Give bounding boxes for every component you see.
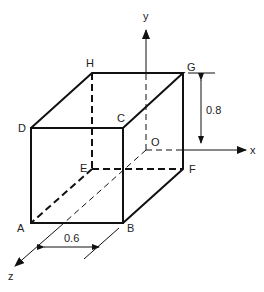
- dimension-height-label: 0.8: [206, 104, 221, 116]
- label-y-axis: y: [143, 10, 149, 22]
- extension-line: [84, 228, 119, 259]
- right-face: [123, 73, 183, 223]
- edge-EA: [31, 169, 92, 223]
- front-face: [31, 128, 123, 223]
- label-E: E: [80, 162, 87, 174]
- dimension-height: 0.8: [188, 73, 221, 143]
- vertex-labels: H G D C O E F A B: [17, 57, 196, 234]
- hidden-edges: [31, 73, 183, 223]
- axis-labels: y x z: [8, 10, 256, 282]
- label-D: D: [18, 122, 26, 134]
- label-C: C: [117, 112, 125, 124]
- label-H: H: [86, 57, 94, 69]
- box-diagram: 0.8 0.6 H G D C O E F A B y x z: [0, 0, 264, 292]
- top-face: [31, 73, 183, 128]
- label-z-axis: z: [8, 270, 14, 282]
- diagram-svg: 0.8 0.6 H G D C O E F A B y x z: [0, 0, 264, 292]
- label-A: A: [17, 222, 25, 234]
- dimension-width: 0.6: [44, 228, 119, 259]
- label-x-axis: x: [250, 144, 256, 156]
- label-O: O: [151, 136, 160, 148]
- dimension-width-label: 0.6: [64, 232, 79, 244]
- label-G: G: [187, 61, 196, 73]
- label-B: B: [127, 222, 134, 234]
- visible-edges: [31, 73, 183, 223]
- label-F: F: [189, 163, 196, 175]
